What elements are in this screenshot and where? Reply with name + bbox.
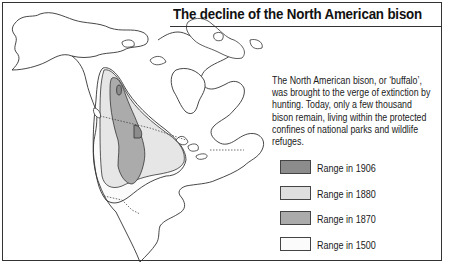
- legend-swatch-1906: [280, 160, 311, 174]
- legend-label-1906: Range in 1906: [317, 162, 376, 174]
- legend-swatch-1870: [280, 211, 311, 225]
- legend-label-1880: Range in 1880: [317, 188, 376, 200]
- page-title: The decline of the North American bison: [173, 5, 422, 23]
- legend-item-1870: Range in 1870: [280, 211, 440, 227]
- range-1906-north: [117, 85, 122, 95]
- legend-item-1500: Range in 1500: [280, 237, 440, 253]
- title-underline: [170, 26, 442, 27]
- legend-swatch-1500: [280, 237, 311, 251]
- description-text: The North American bison, or ‘buffalo’, …: [272, 74, 432, 147]
- legend-label-1500: Range in 1500: [317, 239, 376, 251]
- legend-item-1880: Range in 1880: [280, 186, 440, 202]
- legend-label-1870: Range in 1870: [317, 213, 376, 225]
- legend-item-1906: Range in 1906: [280, 160, 440, 176]
- legend-swatch-1880: [280, 186, 311, 200]
- hudson-bay: [171, 68, 205, 113]
